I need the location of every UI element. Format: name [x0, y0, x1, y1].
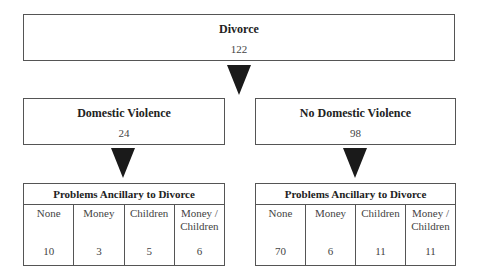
table-cell-money-children: Money / Children6: [174, 205, 224, 266]
column-value: 5: [125, 245, 174, 257]
ancillary-problems-table-dv: Problems Ancillary to Divorce None10 Mon…: [23, 183, 225, 266]
table-cell-none: None10: [24, 205, 74, 266]
table-cell-money-children: Money / Children11: [406, 205, 456, 266]
arrow-down-icon: [227, 65, 251, 95]
column-value: 10: [24, 245, 73, 257]
table-header: Problems Ancillary to Divorce: [24, 184, 225, 205]
root-title: Divorce: [24, 22, 454, 37]
column-label: None: [24, 205, 73, 220]
table-header: Problems Ancillary to Divorce: [256, 184, 456, 205]
column-value: 11: [406, 245, 455, 257]
table-cell-none: None70: [256, 205, 306, 266]
column-label: Children: [356, 205, 405, 220]
table-cell-children: Children5: [124, 205, 174, 266]
column-value: 3: [74, 245, 123, 257]
node-domestic-violence: Domestic Violence 24: [23, 98, 225, 145]
table-cell-money: Money6: [306, 205, 356, 266]
column-label: Money: [74, 205, 123, 220]
table-cell-money: Money3: [74, 205, 124, 266]
column-label: None: [256, 205, 305, 220]
column-label: Money / Children: [175, 205, 224, 233]
node-count: 24: [24, 127, 224, 139]
node-title: Domestic Violence: [24, 106, 224, 121]
column-value: 6: [175, 245, 224, 257]
table-cell-children: Children11: [356, 205, 406, 266]
arrow-down-icon: [343, 148, 367, 178]
column-value: 11: [356, 245, 405, 257]
ancillary-problems-table-no-dv: Problems Ancillary to Divorce None70 Mon…: [255, 183, 456, 266]
root-count: 122: [24, 43, 454, 55]
node-count: 98: [256, 127, 455, 139]
column-label: Money: [306, 205, 355, 220]
column-label: Money / Children: [406, 205, 455, 233]
node-no-domestic-violence: No Domestic Violence 98: [255, 98, 456, 145]
column-value: 70: [256, 245, 305, 257]
arrow-down-icon: [111, 148, 135, 178]
column-label: Children: [125, 205, 174, 220]
root-node-divorce: Divorce 122: [23, 14, 455, 61]
node-title: No Domestic Violence: [256, 106, 455, 121]
column-value: 6: [306, 245, 355, 257]
